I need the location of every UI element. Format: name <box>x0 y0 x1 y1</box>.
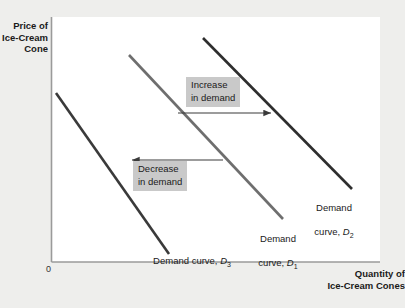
demand-curve-shift-figure: Price of Ice-Cream Cone Quantity of Ice-… <box>0 0 405 308</box>
origin-label: 0 <box>46 264 51 274</box>
d3-label-line1: Demand curve, <box>153 255 220 266</box>
d2-subscript: 2 <box>350 232 354 239</box>
y-axis-title: Price of Ice-Cream Cone <box>0 20 48 55</box>
d3-symbol: D <box>220 255 227 266</box>
d2-label-line1: Demand <box>316 202 352 213</box>
d1-label-line2: curve, <box>258 257 287 268</box>
d2-symbol: D <box>343 226 350 237</box>
d1-symbol: D <box>287 257 294 268</box>
demand-curve-d3-label: Demand curve, D3 <box>128 243 256 271</box>
d3-subscript: 3 <box>227 261 231 268</box>
increase-in-demand-label: Increase in demand <box>186 77 240 107</box>
decrease-in-demand-label: Decrease in demand <box>133 161 187 191</box>
d1-subscript: 1 <box>294 263 298 270</box>
d1-label-line1: Demand <box>260 233 296 244</box>
d2-label-line2: curve, <box>314 226 343 237</box>
